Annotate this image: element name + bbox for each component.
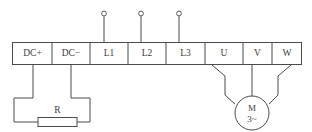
- terminal-label-u: U: [221, 48, 228, 58]
- supply-terminal-nodes: [102, 11, 182, 16]
- braking-resistor-circuit: R: [14, 64, 90, 127]
- terminal-label-v: V: [254, 48, 261, 58]
- supply-node-l3-icon: [177, 11, 182, 16]
- braking-resistor-body: [38, 118, 77, 127]
- terminal-label-l2: L2: [142, 48, 153, 58]
- dcplus-resistor-wire: [14, 64, 33, 122]
- motor-lead-w: [269, 65, 291, 104]
- braking-resistor-label: R: [54, 105, 61, 115]
- supply-node-l2-icon: [139, 11, 144, 16]
- mains-supply-leads: [104, 16, 179, 42]
- three-phase-motor: M 3~: [235, 96, 269, 130]
- terminal-label-dcminus: DC−: [62, 48, 81, 58]
- supply-node-l1-icon: [102, 11, 107, 16]
- motor-lead-u: [212, 65, 235, 104]
- motor-label-phases: 3~: [247, 114, 257, 124]
- terminal-label-l1: L1: [104, 48, 115, 58]
- motor-circle-outline: [235, 96, 269, 130]
- terminal-strip: DC+ DC− L1 L2 L3 U V W: [13, 43, 302, 65]
- motor-label-m: M: [248, 103, 256, 113]
- wiring-diagram: R M 3~ DC+: [0, 0, 312, 132]
- terminal-label-w: W: [283, 48, 292, 58]
- wiring-diagram-canvas: R M 3~ DC+: [0, 0, 312, 132]
- terminal-label-dcplus: DC+: [23, 48, 42, 58]
- dcminus-resistor-wire: [71, 64, 90, 122]
- terminal-label-l3: L3: [180, 48, 191, 58]
